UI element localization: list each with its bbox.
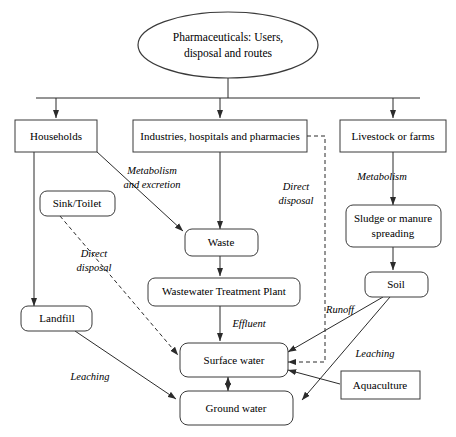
node-sludge-spreading: Sludge or manure spreading	[346, 205, 441, 247]
node-sink-toilet-label: Sink/Toilet	[53, 197, 102, 209]
node-landfill: Landfill	[21, 306, 92, 331]
edge-label-metabolism-right: Metabolism	[356, 171, 407, 182]
node-households: Households	[15, 120, 97, 152]
node-sludge-spreading-label-line2: spreading	[372, 227, 415, 239]
edge-label-metabolism-excretion-line1: Metabolism	[126, 165, 177, 176]
node-ground-water: Ground water	[180, 391, 293, 425]
pharmaceuticals-routes-diagram: Pharmaceuticals: Users, disposal and rou…	[0, 0, 456, 437]
node-landfill-label: Landfill	[39, 312, 74, 324]
edge-aquaculture-to-surface-water	[288, 370, 340, 384]
node-waste: Waste	[185, 229, 258, 256]
node-sludge-spreading-label-line1: Sludge or manure	[354, 212, 432, 224]
edge-label-effluent: Effluent	[231, 318, 266, 329]
node-industries: Industries, hospitals and pharmacies	[133, 120, 307, 152]
edge-label-metabolism-excretion-line2: and excretion	[123, 179, 180, 190]
node-wwtp-label: Wastewater Treatment Plant	[162, 285, 286, 297]
edge-landfill-to-ground-water	[75, 331, 176, 399]
node-livestock-label: Livestock or farms	[351, 130, 434, 142]
edge-industries-to-surface-water	[288, 136, 325, 362]
node-industries-label: Industries, hospitals and pharmacies	[140, 130, 299, 142]
edge-label-direct-disposal-left-line1: Direct	[80, 248, 109, 259]
node-surface-water-label: Surface water	[204, 354, 265, 366]
edge-label-leaching-left: Leaching	[69, 371, 109, 382]
node-wwtp: Wastewater Treatment Plant	[148, 278, 300, 306]
node-ground-water-label: Ground water	[206, 402, 267, 414]
node-title-ellipse-label-line2: disposal and routes	[184, 47, 273, 60]
node-households-label: Households	[30, 130, 82, 142]
node-soil-label: Soil	[387, 278, 405, 290]
node-surface-water: Surface water	[180, 343, 288, 377]
node-aquaculture: Aquaculture	[341, 371, 420, 399]
node-livestock: Livestock or farms	[340, 120, 446, 152]
node-layer: Pharmaceuticals: Users, disposal and rou…	[15, 12, 446, 425]
node-title-ellipse: Pharmaceuticals: Users, disposal and rou…	[138, 12, 318, 78]
edge-label-leaching-right: Leaching	[354, 348, 394, 359]
edge-label-runoff: Runoff	[325, 304, 356, 315]
edge-label-direct-disposal-right-line1: Direct	[282, 181, 311, 192]
node-soil: Soil	[365, 272, 428, 297]
edge-label-direct-disposal-left-line2: disposal	[76, 262, 111, 273]
node-waste-label: Waste	[208, 236, 235, 248]
flowchart-canvas: Pharmaceuticals: Users, disposal and rou…	[0, 0, 456, 437]
node-sink-toilet: Sink/Toilet	[40, 191, 115, 216]
node-title-ellipse-label-line1: Pharmaceuticals: Users,	[173, 31, 284, 44]
edge-label-direct-disposal-right-line2: disposal	[278, 195, 313, 206]
node-aquaculture-label: Aquaculture	[353, 379, 407, 391]
